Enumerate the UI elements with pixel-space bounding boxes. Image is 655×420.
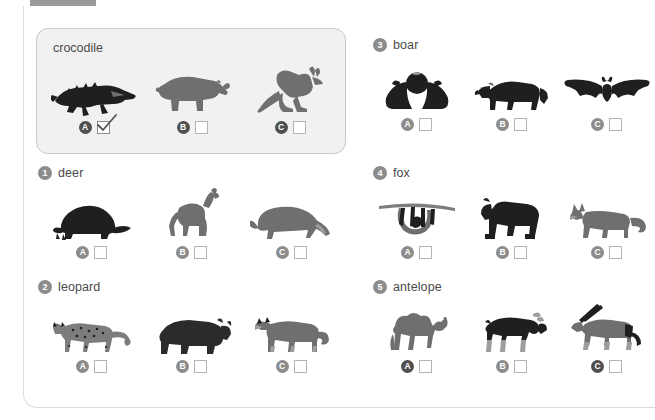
option-5-a[interactable]: A [369,302,464,373]
option-letter-c: C [591,118,604,131]
kangaroo-silhouette [244,63,336,117]
option-3-a[interactable]: A [369,60,464,131]
checkbox-2-b[interactable] [194,360,207,373]
question-number-3: 3 [373,38,387,52]
option-letter-a: A [79,121,92,134]
question-3: 3 boar [359,36,655,131]
checkbox-example-a[interactable] [97,121,110,134]
question-number-2: 2 [38,280,52,294]
option-letter-c: C [275,121,288,134]
fox-silhouette [561,188,653,242]
checkbox-2-a[interactable] [94,360,107,373]
option-2-b[interactable]: B [142,302,242,373]
wolf-silhouette [245,302,337,356]
question-1: 1 deer A [24,164,359,259]
question-2: 2 leopard [24,278,359,373]
option-letter-b: B [496,118,509,131]
checkbox-2-c[interactable] [294,360,307,373]
answer-example-a[interactable]: A [79,121,110,134]
option-4-a[interactable]: A [369,188,464,259]
question-label-5: antelope [393,280,442,294]
option-example-b[interactable]: B [143,63,241,134]
option-2-c[interactable]: C [241,302,341,373]
porcupine-silhouette [46,188,138,242]
question-4: 4 fox A [359,164,655,259]
answer-4-b[interactable]: B [496,246,527,259]
moose-silhouette [466,302,558,356]
anteater-silhouette [245,188,337,242]
answer-example-c[interactable]: C [275,121,306,134]
question-number-5: 5 [373,280,387,294]
camel-silhouette [371,302,463,356]
option-1-b[interactable]: B [142,188,242,259]
question-label-4: fox [393,166,410,180]
crocodile-silhouette [48,63,140,117]
question-number-4: 4 [373,166,387,180]
question-number-1: 1 [38,166,52,180]
option-3-c[interactable]: C [559,60,654,131]
option-letter-b: B [496,360,509,373]
checkbox-5-b[interactable] [514,360,527,373]
option-letter-c: C [276,360,289,373]
checkbox-3-b[interactable] [514,118,527,131]
option-2-a[interactable]: A [42,302,142,373]
answer-3-a[interactable]: A [401,118,432,131]
checkbox-1-c[interactable] [294,246,307,259]
answer-4-a[interactable]: A [401,246,432,259]
answer-2-b[interactable]: B [176,360,207,373]
checkbox-3-c[interactable] [609,118,622,131]
gorilla-silhouette [466,188,558,242]
option-example-a[interactable]: A [45,63,143,134]
answer-example-b[interactable]: B [177,121,208,134]
option-letter-a: A [401,118,414,131]
sloth-silhouette [371,188,463,242]
checkbox-4-a[interactable] [419,246,432,259]
option-letter-b: B [176,360,189,373]
answer-1-b[interactable]: B [176,246,207,259]
option-5-b[interactable]: B [464,302,559,373]
option-example-c[interactable]: C [241,63,339,134]
answer-2-c[interactable]: C [276,360,307,373]
checkbox-4-b[interactable] [514,246,527,259]
bat-flying-silhouette [561,60,653,114]
option-letter-b: B [176,246,189,259]
option-letter-c: C [276,246,289,259]
option-letter-b: B [177,121,190,134]
answer-5-b[interactable]: B [496,360,527,373]
checkbox-3-a[interactable] [419,118,432,131]
deer-silhouette [146,188,238,242]
leopard-silhouette [46,302,138,356]
checkbox-5-a[interactable] [419,360,432,373]
bear-silhouette [146,302,238,356]
answer-3-c[interactable]: C [591,118,622,131]
rhinoceros-silhouette [146,63,238,117]
checkbox-example-c[interactable] [293,121,306,134]
boar-silhouette [466,60,558,114]
checkbox-example-b[interactable] [195,121,208,134]
checkbox-1-a[interactable] [94,246,107,259]
worksheet-page: crocodile [0,0,655,420]
answer-5-c[interactable]: C [591,360,622,373]
option-letter-b: B [496,246,509,259]
answer-1-a[interactable]: A [76,246,107,259]
option-1-c[interactable]: C [241,188,341,259]
option-1-a[interactable]: A [42,188,142,259]
option-letter-c: C [591,246,604,259]
option-3-b[interactable]: B [464,60,559,131]
bat-hanging-silhouette [371,60,463,114]
checkbox-5-c[interactable] [609,360,622,373]
option-5-c[interactable]: C [559,302,654,373]
answer-4-c[interactable]: C [591,246,622,259]
option-letter-a: A [76,360,89,373]
answer-5-a[interactable]: A [401,360,432,373]
option-letter-c: C [591,360,604,373]
checkbox-1-b[interactable] [194,246,207,259]
answer-1-c[interactable]: C [276,246,307,259]
example-label: crocodile [53,41,103,55]
answer-2-a[interactable]: A [76,360,107,373]
option-4-b[interactable]: B [464,188,559,259]
option-4-c[interactable]: C [559,188,654,259]
answer-3-b[interactable]: B [496,118,527,131]
checkbox-4-c[interactable] [609,246,622,259]
option-letter-a: A [401,246,414,259]
